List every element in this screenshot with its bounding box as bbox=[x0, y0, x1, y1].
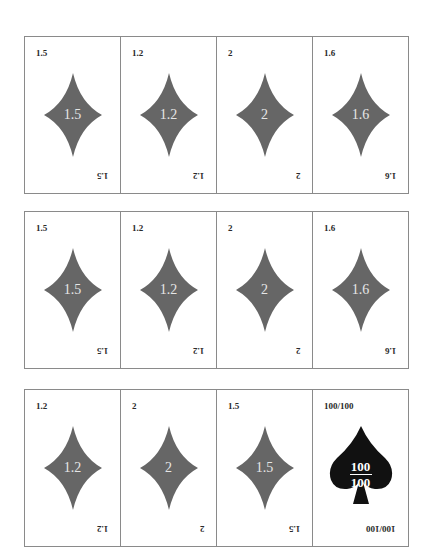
card[interactable]: 1.6 1.6 1.6 bbox=[313, 37, 408, 193]
spade-icon: 100 100 bbox=[329, 426, 393, 510]
card-value: 1.5 bbox=[44, 107, 102, 123]
card-row-2: 1.5 1.5 1.5 1.2 1.2 1.2 2 2 2 1.6 1.6 1.… bbox=[24, 211, 409, 369]
card-value: 2 bbox=[236, 107, 294, 123]
card-corner-bottom: 1.2 bbox=[193, 346, 204, 356]
card-corner-top: 1.5 bbox=[36, 223, 47, 233]
card[interactable]: 2 2 2 bbox=[217, 37, 313, 193]
card-corner-bottom: 1.2 bbox=[193, 171, 204, 181]
card-corner-bottom: 1.2 bbox=[97, 524, 108, 534]
card-corner-bottom: 2 bbox=[296, 171, 301, 181]
card-value: 1.6 bbox=[332, 282, 390, 298]
card-value: 1.6 bbox=[332, 107, 390, 123]
card[interactable]: 1.5 1.5 1.5 bbox=[25, 212, 121, 368]
card[interactable]: 2 2 2 bbox=[217, 212, 313, 368]
card[interactable]: 2 2 2 bbox=[121, 390, 217, 546]
card-corner-top: 1.2 bbox=[132, 48, 143, 58]
card[interactable]: 1.5 1.5 1.5 bbox=[217, 390, 313, 546]
card-corner-bottom: 2 bbox=[200, 524, 205, 534]
card-corner-top: 1.5 bbox=[228, 401, 239, 411]
card[interactable]: 1.2 1.2 1.2 bbox=[121, 37, 217, 193]
card-value: 1.2 bbox=[140, 282, 198, 298]
diamond-icon: 1.5 bbox=[44, 73, 102, 157]
card-corner-bottom: 1.5 bbox=[97, 171, 108, 181]
card-row-1: 1.5 1.5 1.5 1.2 1.2 1.2 2 2 2 1.6 1.6 1.… bbox=[24, 36, 409, 194]
diamond-icon: 1.5 bbox=[44, 248, 102, 332]
card-corner-bottom: 1.6 bbox=[385, 346, 396, 356]
diamond-icon: 1.2 bbox=[140, 73, 198, 157]
card-value: 2 bbox=[140, 460, 198, 476]
card-corner-top: 2 bbox=[228, 48, 233, 58]
card-corner-bottom: 1.5 bbox=[289, 524, 300, 534]
diamond-icon: 2 bbox=[236, 248, 294, 332]
diamond-icon: 1.2 bbox=[44, 426, 102, 510]
card[interactable]: 1.2 1.2 1.2 bbox=[25, 390, 121, 546]
spade-fraction: 100 100 bbox=[329, 460, 393, 489]
card-corner-bottom: 100/100 bbox=[366, 524, 396, 534]
diamond-icon: 1.2 bbox=[140, 248, 198, 332]
card-corner-top: 2 bbox=[132, 401, 137, 411]
diamond-icon: 1.6 bbox=[332, 248, 390, 332]
diamond-icon: 1.5 bbox=[236, 426, 294, 510]
fraction-denominator: 100 bbox=[351, 475, 371, 490]
card[interactable]: 1.2 1.2 1.2 bbox=[121, 212, 217, 368]
card-value: 1.5 bbox=[236, 460, 294, 476]
card-corner-bottom: 1.6 bbox=[385, 171, 396, 181]
card-corner-top: 1.6 bbox=[324, 48, 335, 58]
card-corner-bottom: 1.5 bbox=[97, 346, 108, 356]
card-value: 1.2 bbox=[44, 460, 102, 476]
fraction-numerator: 100 bbox=[351, 459, 371, 474]
diamond-icon: 2 bbox=[236, 73, 294, 157]
card-corner-top: 100/100 bbox=[324, 401, 354, 411]
card-corner-top: 1.2 bbox=[36, 401, 47, 411]
diamond-icon: 1.6 bbox=[332, 73, 390, 157]
card[interactable]: 1.6 1.6 1.6 bbox=[313, 212, 408, 368]
card-row-3: 1.2 1.2 1.2 2 2 2 1.5 1.5 1.5 100/100 10… bbox=[24, 389, 409, 547]
card[interactable]: 100/100 100 100 100/100 bbox=[313, 390, 408, 546]
diamond-icon: 2 bbox=[140, 426, 198, 510]
card-corner-top: 1.2 bbox=[132, 223, 143, 233]
card-corner-top: 1.6 bbox=[324, 223, 335, 233]
card-value: 1.2 bbox=[140, 107, 198, 123]
card[interactable]: 1.5 1.5 1.5 bbox=[25, 37, 121, 193]
card-corner-bottom: 2 bbox=[296, 346, 301, 356]
card-value: 1.5 bbox=[44, 282, 102, 298]
card-corner-top: 1.5 bbox=[36, 48, 47, 58]
card-corner-top: 2 bbox=[228, 223, 233, 233]
card-value: 2 bbox=[236, 282, 294, 298]
